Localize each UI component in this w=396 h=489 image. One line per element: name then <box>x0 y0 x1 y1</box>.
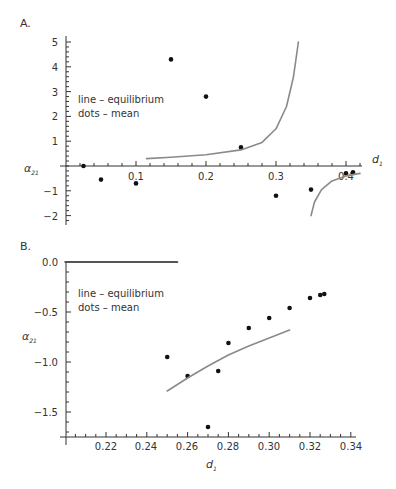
mean-dot <box>308 296 313 301</box>
legend-dots: dots – mean <box>78 302 139 313</box>
legend-line: line – equilibrium <box>78 94 164 105</box>
x-tick-label: 0.34 <box>340 441 362 452</box>
mean-dot <box>165 355 170 360</box>
mean-dot <box>226 341 231 346</box>
legend-line: line – equilibrium <box>78 288 164 299</box>
mean-dot <box>99 177 104 182</box>
mean-dot <box>274 194 279 199</box>
panel-b-y-tick-labels: 0.0 −0.5 −1.0 −1.5 <box>34 257 58 418</box>
figure: A. 5 4 3 2 1 −1 −2 0.1 0.2 0.3 0.4 line … <box>0 0 396 489</box>
y-axis-label: α21 <box>22 330 37 344</box>
panel-a: A. 5 4 3 2 1 −1 −2 0.1 0.2 0.3 0.4 line … <box>20 17 383 225</box>
y-tick-label: 0.0 <box>42 257 58 268</box>
mean-dot <box>216 369 221 374</box>
y-axis-label: α21 <box>24 162 39 176</box>
panel-b: B. 0.0 −0.5 −1.0 −1.5 0.22 0.24 0.26 0.2… <box>20 240 362 472</box>
y-tick-label: −0.5 <box>34 307 58 318</box>
panel-a-x-tick-labels: 0.1 0.2 0.3 0.4 <box>128 171 354 182</box>
legend-dots: dots – mean <box>78 108 139 119</box>
y-tick-label: −1.0 <box>34 357 58 368</box>
x-axis-label: d1 <box>372 153 383 167</box>
x-tick-label: 0.32 <box>299 441 321 452</box>
x-tick-label: 0.2 <box>198 171 214 182</box>
equilibrium-line <box>167 330 289 391</box>
x-tick-label: 0.22 <box>95 441 117 452</box>
mean-dot <box>169 57 174 62</box>
y-tick-label: −1.5 <box>34 407 58 418</box>
mean-dot <box>81 164 86 169</box>
mean-dot <box>206 425 211 430</box>
mean-dot <box>287 306 292 311</box>
mean-dot <box>322 292 327 297</box>
x-tick-label: 0.3 <box>268 171 284 182</box>
mean-dot <box>318 293 323 298</box>
y-tick-label: 3 <box>52 87 58 98</box>
x-tick-label: 0.1 <box>128 171 144 182</box>
x-axis-label: d1 <box>206 458 217 472</box>
x-tick-label: 0.26 <box>176 441 198 452</box>
x-tick-label: 0.24 <box>135 441 157 452</box>
y-tick-label: 5 <box>52 37 58 48</box>
y-tick-label: 2 <box>52 111 58 122</box>
y-tick-label: 1 <box>52 136 58 147</box>
y-tick-label: 4 <box>52 62 58 73</box>
y-tick-label: −2 <box>43 211 58 222</box>
panel-a-label: A. <box>20 17 31 30</box>
y-tick-label: −1 <box>43 186 58 197</box>
x-tick-label: 0.28 <box>217 441 239 452</box>
mean-dot <box>247 326 252 331</box>
panel-a-y-tick-labels: 5 4 3 2 1 −1 −2 <box>43 37 58 222</box>
mean-dot <box>134 181 139 186</box>
mean-dot <box>267 316 272 321</box>
mean-dot <box>204 94 209 99</box>
panel-b-x-tick-labels: 0.22 0.24 0.26 0.28 0.30 0.32 0.34 <box>95 441 362 452</box>
mean-dot <box>309 187 314 192</box>
panel-b-label: B. <box>20 240 31 253</box>
x-tick-label: 0.30 <box>258 441 280 452</box>
panel-a-series <box>81 42 360 216</box>
